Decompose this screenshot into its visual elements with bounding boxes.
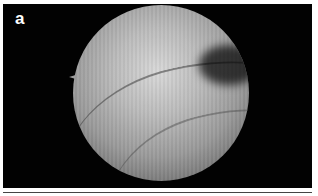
arthroscopic-view	[73, 5, 249, 181]
panel-label: a	[15, 10, 24, 27]
image-panel: a	[3, 4, 312, 188]
divider	[3, 192, 312, 193]
